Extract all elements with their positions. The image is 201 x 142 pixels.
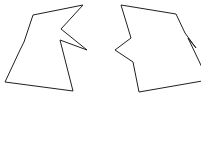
- figure-canvas: [0, 0, 201, 142]
- shapes-svg: [0, 0, 201, 142]
